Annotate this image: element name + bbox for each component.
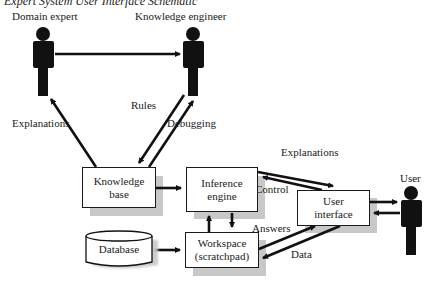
inference-engine-line2: engine xyxy=(201,190,243,203)
workspace-box: Workspace (scratchpad) xyxy=(185,232,259,268)
data-label: Data xyxy=(291,248,312,260)
user-label: User xyxy=(400,172,421,184)
arrow-kb-to-expert xyxy=(51,99,96,167)
knowledge-base-line1: Knowledge xyxy=(94,175,145,188)
knowledge-engineer-label: Knowledge engineer xyxy=(135,10,226,22)
workspace-line1: Workspace xyxy=(195,237,249,250)
knowledge-engineer-person-icon xyxy=(183,27,204,96)
domain-expert-label: Domain expert xyxy=(12,10,78,22)
rules-label: Rules xyxy=(131,99,156,111)
inference-engine-box: Inference engine xyxy=(186,167,258,212)
user-person-icon xyxy=(401,186,422,255)
knowledge-base-line2: base xyxy=(94,188,145,201)
knowledge-base-box: Knowledge base xyxy=(82,167,156,208)
inference-engine-line1: Inference xyxy=(201,177,243,190)
user-interface-line1: User xyxy=(314,195,352,208)
explanations-to-ui-label: Explanations xyxy=(281,146,338,158)
debugging-label: Debugging xyxy=(167,117,216,129)
explanations-to-expert-label: Explanations xyxy=(12,117,69,129)
database-label: Database xyxy=(86,243,152,255)
user-interface-box: User interface xyxy=(297,190,370,226)
user-interface-line2: interface xyxy=(314,208,352,221)
domain-expert-person-icon xyxy=(33,27,54,96)
control-label: Control xyxy=(255,183,289,195)
workspace-line2: (scratchpad) xyxy=(195,250,249,263)
